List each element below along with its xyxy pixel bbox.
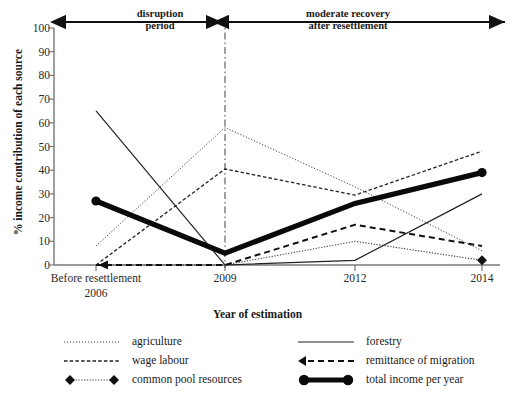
legend-swatch-common-pool-resources-icon [62, 370, 124, 389]
legend-item-wage-labour: wage labour [62, 351, 292, 370]
legend-swatch-wage-labour-icon [62, 351, 124, 370]
x-axis-ticks [96, 265, 482, 271]
total-income-marker-2006 [91, 196, 100, 205]
legend-label-agriculture: agriculture [132, 332, 182, 351]
legend-label-wage-labour: wage labour [132, 351, 189, 370]
series-common-pool-resources-end-marker [477, 255, 487, 265]
series-total-income-per-year [96, 173, 482, 254]
legend-swatch-remittance-icon [296, 351, 358, 370]
chart-figure: % income contribution of each source 100… [0, 0, 515, 403]
legend-item-remittance: remittance of migration [296, 351, 511, 370]
legend-label-common-pool-resources: common pool resources [132, 370, 242, 389]
legend-column-left: agriculture wage labour common pool reso… [62, 332, 292, 389]
legend-swatch-total-income-icon [296, 370, 358, 389]
legend-column-right: forestry remittance of migration [296, 332, 511, 389]
series-common-pool-resources [96, 241, 482, 265]
legend-label-remittance: remittance of migration [366, 351, 475, 370]
legend-item-agriculture: agriculture [62, 332, 292, 351]
legend-item-forestry: forestry [296, 332, 511, 351]
legend-swatch-forestry-icon [296, 332, 358, 351]
series-wage-labour [96, 151, 482, 265]
legend-item-common-pool-resources: common pool resources [62, 370, 292, 389]
legend-swatch-agriculture-icon [62, 332, 124, 351]
total-income-marker-2014 [477, 168, 486, 177]
chart-legend: agriculture wage labour common pool reso… [0, 330, 515, 400]
legend-label-forestry: forestry [366, 332, 402, 351]
y-axis-ticks [48, 28, 54, 265]
legend-label-total-income: total income per year [366, 370, 463, 389]
legend-item-total-income: total income per year [296, 370, 511, 389]
